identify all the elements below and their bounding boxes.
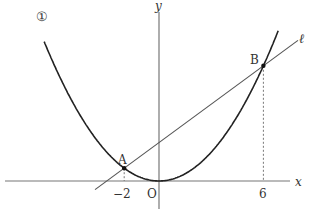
- origin-label: O: [147, 187, 157, 201]
- x-axis-label: x: [295, 175, 302, 189]
- point-b: [261, 64, 265, 68]
- line-l-label: ℓ: [299, 31, 305, 46]
- parabola-line-diagram: ① y x O ℓ A B −2 6: [0, 0, 312, 209]
- tick-label-neg2: −2: [113, 187, 131, 201]
- y-axis-label: y: [154, 0, 162, 13]
- parabola-curve-1: [44, 31, 278, 181]
- point-b-label: B: [250, 53, 259, 67]
- point-a-label: A: [117, 153, 127, 167]
- curve-label: ①: [36, 9, 48, 24]
- tick-label-6: 6: [259, 187, 267, 201]
